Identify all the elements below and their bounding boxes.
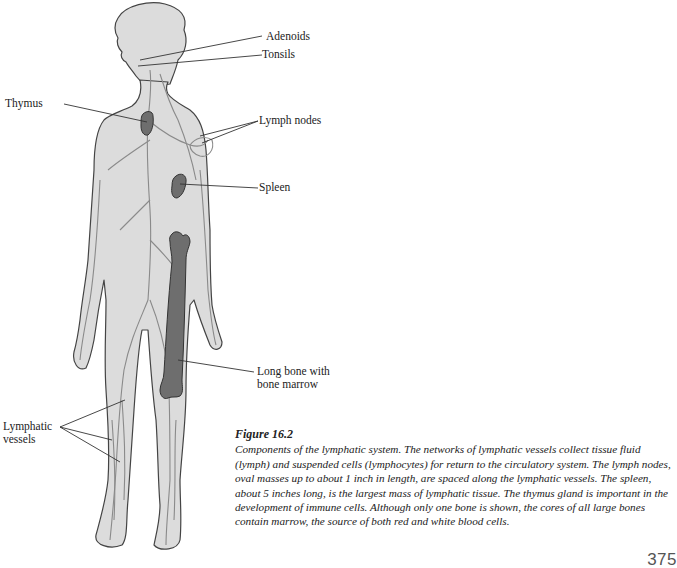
page-number: 375	[647, 550, 677, 568]
label-long-bone-line2: bone marrow	[257, 378, 318, 391]
label-lymphatic-vessels-line2: vessels	[3, 433, 36, 446]
label-lymphatic-vessels-line1: Lymphatic	[3, 420, 52, 433]
leader-lymph-nodes-2	[202, 121, 258, 143]
label-long-bone-line1: Long bone with	[257, 365, 330, 378]
leader-lymph-nodes-1	[200, 121, 258, 136]
label-thymus: Thymus	[5, 97, 43, 110]
label-adenoids: Adenoids	[266, 30, 310, 43]
label-lymph-nodes: Lymph nodes	[259, 114, 321, 127]
figure-caption: Figure 16.2 Components of the lymphatic …	[235, 427, 675, 529]
label-tonsils: Tonsils	[262, 48, 295, 61]
leader-long-bone	[178, 360, 254, 372]
label-spleen: Spleen	[259, 181, 290, 194]
caption-text: Components of the lymphatic system. The …	[235, 443, 671, 527]
human-body-figure	[74, 3, 222, 549]
leader-lymphatic-vessels-2	[60, 427, 112, 440]
caption-title: Figure 16.2	[235, 427, 675, 441]
